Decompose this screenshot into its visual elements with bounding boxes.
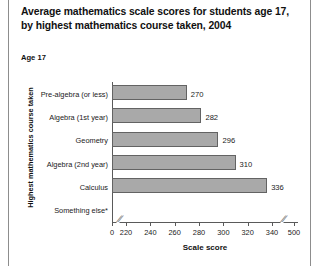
bar: [112, 85, 187, 100]
category-label: Algebra (2nd year): [47, 159, 108, 168]
x-axis-tick: [294, 222, 295, 226]
bar: [112, 132, 218, 147]
x-axis-line: [112, 222, 298, 223]
x-axis-tick-label: 220: [120, 228, 132, 237]
x-axis-tick: [150, 222, 151, 226]
y-axis-title: Highest mathematics course taken: [26, 73, 35, 223]
bar-row: Calculus336: [112, 175, 298, 198]
category-label: Pre-algebra (or less): [41, 89, 108, 98]
x-axis-tick: [199, 222, 200, 226]
bar-row: Pre-algebra (or less)270: [112, 82, 298, 105]
bar-row: Something else*: [112, 199, 298, 222]
x-axis-tick: [175, 222, 176, 226]
bar-value-label: 310: [240, 159, 253, 168]
category-label: Calculus: [80, 182, 108, 191]
bar-value-label: 270: [191, 89, 204, 98]
x-axis-tick: [126, 222, 127, 226]
page-rule-left: [8, 0, 9, 266]
bar: [112, 108, 201, 123]
x-axis-tick-label: 280: [193, 228, 205, 237]
x-axis-tick: [223, 222, 224, 226]
chart-figure: Average mathematics scale scores for stu…: [0, 0, 328, 266]
bar-value-label: 336: [271, 182, 284, 191]
category-label: Geometry: [76, 136, 108, 145]
x-axis-tick-label: 320: [241, 228, 253, 237]
page-rule-right: [310, 0, 311, 266]
bar: [112, 155, 236, 170]
bar-row: Geometry296: [112, 129, 298, 152]
x-axis-title: Scale score: [112, 243, 298, 252]
x-axis-tick-label: 500: [288, 228, 300, 237]
x-axis-tick-label: 340: [266, 228, 278, 237]
x-axis-tick-label: 240: [144, 228, 156, 237]
category-label: Algebra (1st year): [49, 112, 108, 121]
chart-title: Average mathematics scale scores for stu…: [21, 5, 297, 33]
x-axis-tick-label: 300: [217, 228, 229, 237]
x-axis-tick-label: 260: [168, 228, 180, 237]
x-axis-tick: [248, 222, 249, 226]
plot-area: Pre-algebra (or less)270Algebra (1st yea…: [112, 82, 298, 222]
bar-row: Algebra (1st year)282: [112, 105, 298, 128]
bar-value-label: 282: [205, 112, 218, 121]
bar-row: Algebra (2nd year)310: [112, 152, 298, 175]
category-label: Something else*: [54, 206, 108, 215]
x-axis-tick-label: 0: [110, 228, 114, 237]
chart-subtitle-age: Age 17: [21, 53, 46, 62]
bar: [112, 178, 267, 193]
x-axis-tick: [272, 222, 273, 226]
bar-value-label: 296: [222, 136, 235, 145]
x-axis-tick: [112, 222, 113, 226]
